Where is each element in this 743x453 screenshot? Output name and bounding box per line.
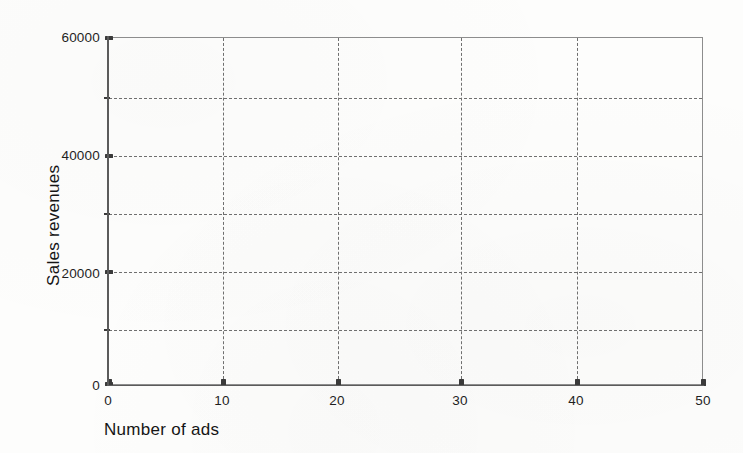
gridline-x-20	[338, 38, 339, 384]
gridline-y-10000	[109, 330, 702, 331]
x-axis-title: Number of ads	[104, 420, 219, 440]
gridline-y-30000	[109, 214, 702, 215]
gridline-y-50000	[109, 98, 702, 99]
plot-area	[108, 37, 703, 385]
y-tick-label-40000: 40000	[61, 149, 100, 163]
gridline-x-30	[461, 38, 462, 384]
y-tick-label-20000: 20000	[61, 267, 100, 281]
x-tick-label-30: 30	[450, 394, 470, 408]
y-tick-label-0: 0	[92, 379, 100, 393]
gridline-y-20000	[109, 272, 702, 273]
gridline-y-40000	[109, 156, 702, 157]
x-tick-label-50: 50	[693, 394, 713, 408]
y-tick-label-60000: 60000	[61, 31, 100, 45]
x-tick-label-40: 40	[566, 394, 586, 408]
gridline-x-40	[577, 38, 578, 384]
x-tick-label-20: 20	[327, 394, 347, 408]
y-axis-line	[107, 36, 109, 386]
x-tick-label-10: 10	[212, 394, 232, 408]
x-axis-line	[107, 385, 704, 387]
x-tick-label-0: 0	[98, 394, 118, 408]
chart-figure: Sales revenues Number of ads 60000 40000…	[0, 0, 743, 453]
gridline-x-10	[223, 38, 224, 384]
